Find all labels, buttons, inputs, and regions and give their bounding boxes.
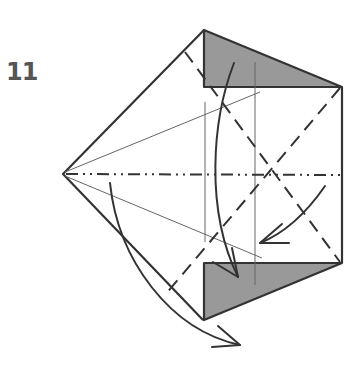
left-arrow-head (260, 224, 289, 243)
origami-diagram (0, 0, 356, 373)
bottom-shaded-flap (204, 263, 342, 320)
mountain-fold (66, 174, 340, 175)
down-arrow (215, 63, 238, 277)
top-shaded-flap (204, 30, 342, 87)
